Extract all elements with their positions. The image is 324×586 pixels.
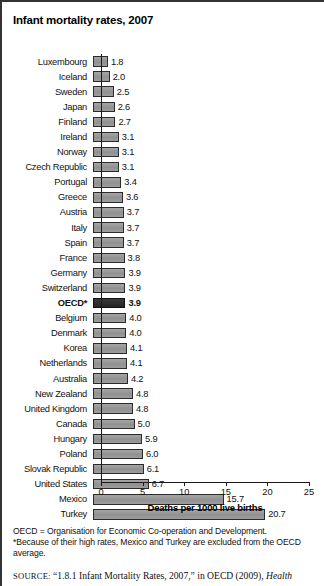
bar-category-label: Japan (10, 102, 93, 112)
footnote-oecd-definition: OECD = Organisation for Economic Co-oper… (13, 526, 313, 537)
bar-value-label: 5.0 (138, 419, 150, 429)
bar (93, 298, 125, 309)
bar-value-label: 4.0 (129, 328, 141, 338)
bar-category-label: Italy (10, 223, 93, 233)
bar-value-label: 3.8 (128, 253, 140, 263)
source-label: SOURCE: (13, 571, 51, 581)
bar-track: 3.1 (93, 129, 320, 144)
source-line: SOURCE: “1.8.1 Infant Mortality Rates, 2… (13, 570, 321, 582)
bar (93, 86, 114, 97)
bar (93, 313, 126, 324)
bar-track: 3.9 (93, 280, 320, 295)
bar-track: 4.1 (93, 356, 320, 371)
bar-value-label: 4.8 (136, 404, 148, 414)
bar (93, 147, 119, 158)
bar-value-label: 1.8 (111, 57, 123, 67)
page-title: Infant mortality rates, 2007 (13, 14, 153, 26)
bar-value-label: 3.1 (122, 162, 134, 172)
bar-category-label: Germany (10, 268, 93, 278)
table-row: Netherlands4.1 (10, 356, 320, 371)
bar-track: 6.1 (93, 462, 320, 477)
table-row: Greece3.6 (10, 190, 320, 205)
bar-category-label: OECD* (10, 298, 93, 308)
table-row: OECD*3.9 (10, 296, 320, 311)
source-text: “1.8.1 Infant Mortality Rates, 2007,” in… (53, 570, 264, 581)
footnote-exclusion: *Because of their high rates, Mexico and… (13, 537, 313, 559)
bar-category-label: France (10, 253, 93, 263)
x-axis-tick-label: 0 (98, 487, 103, 497)
bar-category-label: Canada (10, 419, 93, 429)
bar-category-label: Hungary (10, 434, 93, 444)
table-row: Spain3.7 (10, 235, 320, 250)
x-axis-tick-label: 10 (179, 487, 189, 497)
bar-value-label: 3.9 (128, 268, 140, 278)
table-row: Italy3.7 (10, 220, 320, 235)
table-row: Denmark4.0 (10, 326, 320, 341)
bar-track: 3.8 (93, 250, 320, 265)
bar-category-label: Ireland (10, 132, 93, 142)
table-row: Sweden2.5 (10, 84, 320, 99)
table-row: Czech Republic3.1 (10, 160, 320, 175)
bar-category-label: Korea (10, 343, 93, 353)
bar-value-label: 3.1 (122, 147, 134, 157)
footnotes: OECD = Organisation for Economic Co-oper… (13, 526, 313, 560)
bar (93, 162, 119, 173)
table-row: Luxembourg1.8 (10, 54, 320, 69)
table-row: Norway3.1 (10, 145, 320, 160)
bar-category-label: Norway (10, 147, 93, 157)
bar-track: 3.7 (93, 220, 320, 235)
bar (93, 419, 135, 430)
bar-value-label: 3.4 (124, 177, 136, 187)
bar-track: 1.8 (93, 54, 320, 69)
bar-track: 6.0 (93, 446, 320, 461)
bar-value-label: 2.7 (118, 117, 130, 127)
bar-track: 3.4 (93, 175, 320, 190)
bar-category-label: Belgium (10, 313, 93, 323)
bar-track: 5.9 (93, 431, 320, 446)
table-row: Japan2.6 (10, 99, 320, 114)
bar-value-label: 4.1 (130, 358, 142, 368)
bar-category-label: Iceland (10, 72, 93, 82)
bar (93, 222, 124, 233)
bar-category-label: Portugal (10, 177, 93, 187)
bar-value-label: 6.1 (147, 464, 159, 474)
bar-track: 3.9 (93, 296, 320, 311)
bar-track: 4.8 (93, 386, 320, 401)
table-row: Ireland3.1 (10, 129, 320, 144)
bar-track: 4.2 (93, 371, 320, 386)
bar-track: 3.9 (93, 265, 320, 280)
table-row: United Kingdom4.8 (10, 401, 320, 416)
bar-track: 4.8 (93, 401, 320, 416)
table-row: Hungary5.9 (10, 431, 320, 446)
bar (93, 253, 125, 264)
bar-value-label: 3.7 (127, 207, 139, 217)
y-axis-line (101, 54, 102, 482)
bar-track: 3.7 (93, 205, 320, 220)
table-row: Canada5.0 (10, 416, 320, 431)
bar-track: 2.7 (93, 114, 320, 129)
bar-value-label: 5.9 (145, 434, 157, 444)
source-publication: Health (266, 570, 292, 581)
bar-category-label: Netherlands (10, 358, 93, 368)
bar (93, 283, 125, 294)
bar-category-label: Austria (10, 207, 93, 217)
bar-track: 2.5 (93, 84, 320, 99)
bar-category-label: Luxembourg (10, 57, 93, 67)
bar (93, 358, 127, 369)
table-row: Portugal3.4 (10, 175, 320, 190)
bar-value-label: 2.0 (113, 72, 125, 82)
bar (93, 388, 133, 399)
table-row: France3.8 (10, 250, 320, 265)
x-axis-tick-label: 15 (221, 487, 231, 497)
bar-track: 5.0 (93, 416, 320, 431)
bar (93, 403, 133, 414)
x-axis-tick (143, 482, 144, 486)
bar (93, 237, 124, 248)
bar-value-label: 4.1 (130, 343, 142, 353)
bar-track: 4.1 (93, 341, 320, 356)
bar-track: 4.0 (93, 326, 320, 341)
bar-category-label: Poland (10, 449, 93, 459)
bar (93, 102, 115, 113)
x-axis-tick (309, 482, 310, 486)
bar-category-label: Greece (10, 192, 93, 202)
